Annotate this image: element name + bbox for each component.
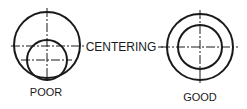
poor-label: POOR bbox=[30, 86, 62, 98]
good-label: GOOD bbox=[183, 91, 217, 103]
poor-centering-figure bbox=[11, 8, 84, 83]
good-centering-figure bbox=[161, 10, 238, 84]
centering-diagram: CENTERING POOR GOOD bbox=[0, 0, 247, 109]
centering-label: CENTERING bbox=[86, 40, 157, 54]
